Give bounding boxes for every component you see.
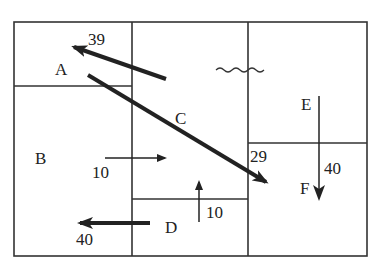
wavy-line-icon [216, 68, 264, 72]
arrow-a-to-f [88, 75, 266, 182]
flow-value-e-f: 40 [324, 159, 341, 178]
flow-value-c-a: 39 [88, 30, 105, 49]
region-label-e: E [301, 95, 311, 114]
region-label-b: B [35, 149, 46, 168]
region-label-c: C [175, 109, 186, 128]
flow-value-d-c: 10 [206, 203, 223, 222]
region-flow-diagram: A B C D E F 39 29 10 10 40 40 [0, 0, 381, 268]
flow-value-d-b: 40 [76, 230, 93, 249]
flow-value-b-c: 10 [92, 163, 109, 182]
region-label-f: F [300, 179, 309, 198]
outer-border [14, 22, 367, 256]
flow-value-a-f: 29 [250, 147, 267, 166]
region-label-d: D [165, 218, 177, 237]
region-label-a: A [55, 60, 68, 79]
arrow-c-to-a [74, 47, 166, 79]
